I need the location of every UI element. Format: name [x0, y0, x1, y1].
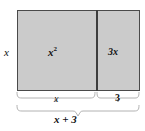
total-width-brace — [16, 104, 140, 117]
left-area-exponent: 2 — [54, 45, 58, 53]
right-width-label: 3 — [115, 93, 120, 103]
area-model-figure: x x2 3x x 3 x + 3 — [0, 0, 145, 131]
right-area-label: 3x — [108, 47, 118, 57]
left-area-label: x2 — [48, 47, 57, 58]
outer-rectangle — [17, 10, 140, 91]
total-span-brace-path — [17, 105, 139, 116]
left-width-label: x — [54, 94, 58, 104]
total-width-label: x + 3 — [54, 114, 77, 125]
upper-braces — [16, 91, 140, 103]
height-label: x — [4, 47, 9, 58]
vertical-divider-line — [96, 10, 98, 91]
rectangle-group — [17, 10, 140, 91]
